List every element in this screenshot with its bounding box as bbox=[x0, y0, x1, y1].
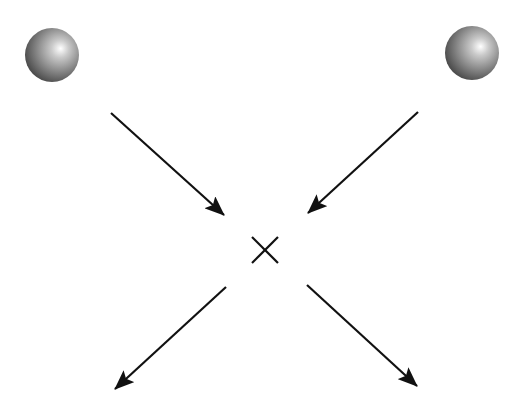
outgoing-left-arrow-icon bbox=[115, 287, 226, 389]
incoming-right-arrow-icon bbox=[308, 112, 418, 213]
outgoing-right-arrow-icon bbox=[307, 285, 417, 386]
collision-diagram bbox=[0, 0, 522, 415]
incoming-left-arrow-icon bbox=[111, 113, 224, 215]
sphere-left-particle-icon bbox=[25, 28, 79, 82]
sphere-right-particle-icon bbox=[445, 26, 499, 80]
